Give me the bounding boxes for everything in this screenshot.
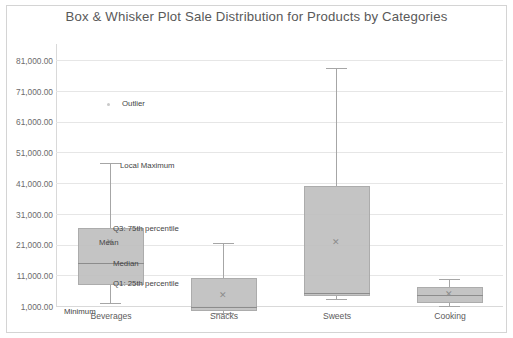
box-group-cooking[interactable]: ✕ <box>415 44 485 306</box>
y-tick-label: 41,000.00 <box>1 179 53 189</box>
plot-area: ✕ ✕ ✕ ✕ <box>56 44 503 306</box>
box-whisker-chart: Box & Whisker Plot Sale Distribution for… <box>0 0 513 338</box>
upper-whisker <box>336 68 337 186</box>
y-tick-label: 1,000.00 <box>1 302 53 312</box>
upper-cap <box>100 163 121 164</box>
lower-cap <box>100 303 121 304</box>
upper-whisker <box>110 163 111 228</box>
median-line <box>191 307 257 308</box>
lower-whisker <box>110 285 111 303</box>
y-axis: 81,000.00 71,000.00 61,000.00 51,000.00 … <box>0 44 53 306</box>
x-axis: Beverages Snacks Sweets Cooking <box>56 311 503 329</box>
upper-cap <box>213 243 234 244</box>
y-tick-label: 51,000.00 <box>1 148 53 158</box>
y-tick-label: 61,000.00 <box>1 117 53 127</box>
x-tick-label-beverages: Beverages <box>76 311 146 321</box>
x-axis-line <box>56 306 503 307</box>
mean-marker: ✕ <box>332 238 340 247</box>
annotation-median: Median <box>113 259 139 268</box>
upper-whisker <box>449 279 450 287</box>
annotation-q3: Q3: 75th percentile <box>113 224 179 233</box>
box-group-snacks[interactable]: ✕ <box>189 44 259 306</box>
lower-cap <box>439 306 460 307</box>
y-tick-label: 11,000.00 <box>1 271 53 281</box>
x-tick-label-sweets: Sweets <box>302 311 372 321</box>
outlier-legend-dot <box>107 103 110 106</box>
y-tick-label: 71,000.00 <box>1 87 53 97</box>
y-tick-label: 21,000.00 <box>1 240 53 250</box>
annotation-outlier: Outlier <box>122 99 145 108</box>
mean-marker: ✕ <box>445 290 453 299</box>
y-tick-label: 81,000.00 <box>1 56 53 66</box>
chart-title: Box & Whisker Plot Sale Distribution for… <box>0 9 513 24</box>
y-tick-label: 31,000.00 <box>1 210 53 220</box>
annotation-local-maximum: Local Maximum <box>120 161 175 170</box>
upper-cap <box>326 68 347 69</box>
mean-marker: ✕ <box>219 291 227 300</box>
lower-cap <box>326 299 347 300</box>
annotation-q1: Q1: 25th percentile <box>113 279 179 288</box>
x-tick-label-snacks: Snacks <box>189 311 259 321</box>
annotation-mean: Mean <box>99 238 119 247</box>
box-group-sweets[interactable]: ✕ <box>302 44 372 306</box>
median-line <box>304 293 370 294</box>
upper-cap <box>439 279 460 280</box>
x-tick-label-cooking: Cooking <box>415 311 485 321</box>
upper-whisker <box>223 243 224 278</box>
